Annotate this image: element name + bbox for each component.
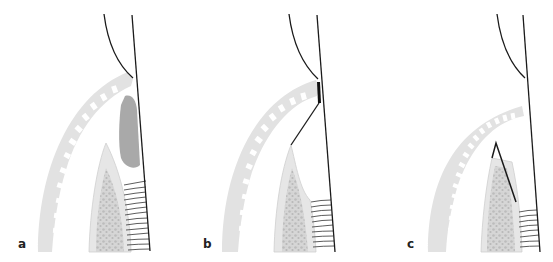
panel-label-a: a [18, 237, 26, 251]
junctional-epithelium [319, 82, 320, 103]
crown-curve [289, 14, 318, 79]
periodontal-diagram-figure: a [0, 0, 553, 262]
panel-c: c [407, 14, 540, 252]
inflamed-tissue [119, 96, 140, 168]
alveolar-bone [274, 145, 316, 252]
crown-curve [497, 14, 525, 78]
root-surface-line [317, 15, 335, 252]
panel-label-c: c [407, 237, 414, 251]
panel-a: a [18, 14, 150, 252]
pocket-outline [291, 103, 319, 145]
crown-curve [104, 14, 133, 78]
panel-b: b [203, 14, 335, 252]
root-surface-line [523, 15, 540, 252]
alveolar-bone [481, 158, 522, 252]
panel-label-b: b [203, 237, 212, 251]
